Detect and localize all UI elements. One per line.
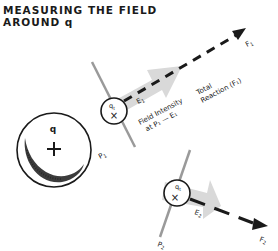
times-icon: × <box>171 192 179 203</box>
point-1-group: qt × E1 P1 F1 Field Intensity at P₁ — E₁… <box>92 28 255 161</box>
times-icon: × <box>110 110 118 121</box>
title-line-2: AROUND q <box>3 16 157 28</box>
source-charge-label: q <box>50 124 56 134</box>
svg-text:F1: F1 <box>244 38 254 49</box>
svg-text:F2: F2 <box>258 235 268 245</box>
svg-text:P1: P1 <box>97 150 108 161</box>
point-2-group: qt × E2 P2 F2 <box>156 150 268 251</box>
title-line-1: MEASURING THE FIELD <box>3 4 157 16</box>
svg-text:E2: E2 <box>193 208 203 219</box>
field-diagram: q qt × E1 P1 F1 Field Intensity at P₁ — … <box>0 0 278 251</box>
source-charge: q <box>17 113 91 187</box>
svg-text:Total Reaction (F₁): Total Reaction (F₁) <box>194 68 243 105</box>
force-arrowhead-1 <box>232 28 246 40</box>
diagram-title: MEASURING THE FIELD AROUND q <box>3 4 157 28</box>
force-arrowhead-2 <box>252 218 268 230</box>
svg-text:P2: P2 <box>156 240 166 251</box>
